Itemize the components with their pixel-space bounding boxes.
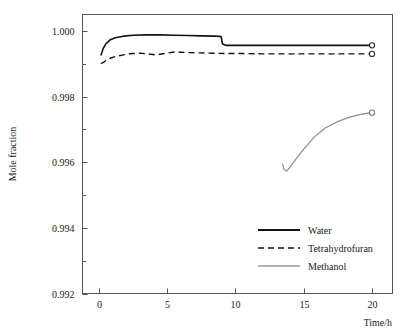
legend-label-tetrahydrofuran: Tetrahydrofuran	[308, 243, 373, 254]
y-axis-tick-labels: 0.9920.9940.9960.9981.000	[52, 26, 75, 300]
y-tick-label: 0.998	[52, 92, 75, 103]
series-line-water	[101, 35, 372, 56]
series-line-methanol	[283, 113, 372, 171]
legend-label-methanol: Methanol	[308, 261, 347, 272]
endpoint-markers-group	[369, 43, 374, 115]
endpoint-marker-tetrahydrofuran	[369, 51, 374, 56]
data-series-group	[101, 35, 372, 171]
y-tick-label: 1.000	[52, 26, 75, 37]
y-axis-ticks	[83, 32, 88, 295]
chart-legend: WaterTetrahydrofuranMethanol	[258, 225, 373, 272]
chart-container: 05101520 0.9920.9940.9960.9981.000 Time/…	[0, 0, 412, 334]
endpoint-marker-methanol	[369, 110, 374, 115]
x-axis-ticks	[100, 289, 373, 294]
x-tick-label: 20	[368, 299, 378, 310]
series-line-tetrahydrofuran	[101, 52, 372, 64]
endpoint-marker-water	[369, 43, 374, 48]
x-tick-label: 10	[231, 299, 241, 310]
y-tick-label: 0.992	[52, 289, 75, 300]
y-tick-label: 0.994	[52, 223, 75, 234]
y-axis-title: Mole fraction	[7, 127, 18, 182]
x-axis-title: Time/h	[363, 317, 392, 328]
x-tick-label: 0	[97, 299, 102, 310]
x-tick-label: 5	[165, 299, 170, 310]
x-axis-tick-labels: 05101520	[97, 299, 378, 310]
legend-label-water: Water	[308, 225, 332, 236]
x-tick-label: 15	[300, 299, 310, 310]
line-chart: 05101520 0.9920.9940.9960.9981.000 Time/…	[0, 0, 412, 334]
y-tick-label: 0.996	[52, 157, 75, 168]
